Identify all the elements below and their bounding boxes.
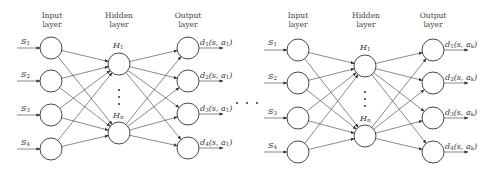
output-label-d4: d4(s, a1) — [200, 138, 232, 149]
hidden-label-hn-k: Hn — [360, 114, 371, 125]
output-node — [177, 137, 199, 159]
hidden-output-edge — [372, 75, 426, 144]
input-hidden-edge — [307, 90, 357, 129]
hidden-node — [354, 125, 376, 147]
hidden-output-edge — [130, 135, 178, 145]
hidden-node — [108, 122, 130, 144]
input-label-s2-k: S2 — [268, 72, 277, 83]
input-node — [40, 70, 62, 92]
hidden-output-edge — [376, 53, 423, 64]
output-node — [177, 70, 199, 92]
output-node — [177, 37, 199, 59]
input-node — [40, 37, 62, 59]
input-label-s1-k: S1 — [268, 38, 277, 49]
input-node — [40, 104, 62, 126]
label-line: layer — [273, 20, 323, 29]
output-layer-label-1: Output layer — [163, 11, 213, 29]
input-hidden-edge — [62, 51, 109, 62]
hidden-output-edge — [372, 59, 426, 128]
label-line: Input — [273, 11, 323, 20]
input-label-s1: S1 — [21, 37, 30, 48]
input-hidden-edge — [309, 69, 355, 81]
hidden-output-edge — [130, 117, 178, 130]
input-layer-label-1: Input layer — [27, 11, 77, 29]
label-line: layer — [27, 20, 77, 29]
input-hidden-edge — [60, 88, 111, 127]
output-node — [422, 72, 444, 94]
output-label-d2: d2(s, a1) — [200, 71, 232, 82]
output-label-d1-k: d1(s, ak) — [445, 40, 477, 51]
input-label-s4: S4 — [21, 138, 30, 149]
output-label-d2-k: d2(s, ak) — [445, 73, 477, 84]
input-label-s4-k: S4 — [268, 141, 277, 152]
output-layer-label-k: Output layer — [408, 11, 458, 29]
input-node — [287, 107, 309, 129]
hidden-output-edge — [126, 57, 181, 125]
output-label-d3-k: d3(s, ak) — [445, 108, 477, 119]
label-line: layer — [163, 20, 213, 29]
label-line: Input — [27, 11, 77, 20]
input-node — [287, 141, 309, 163]
input-node — [40, 138, 62, 160]
input-hidden-edge — [58, 73, 112, 141]
output-label-d4-k: d4(s, ak) — [445, 142, 477, 153]
hidden-output-edge — [374, 90, 425, 129]
hidden-label-h1-k: H1 — [360, 43, 370, 54]
hidden-node — [354, 55, 376, 77]
output-node — [422, 39, 444, 61]
output-label-d3: d3(s, a1) — [200, 104, 232, 115]
input-hidden-edge — [62, 67, 109, 79]
hidden-output-edge — [128, 88, 179, 127]
input-hidden-edge — [309, 139, 355, 150]
label-line: Hidden — [94, 11, 144, 20]
label-line: Output — [408, 11, 458, 20]
input-label-s2: S2 — [21, 70, 30, 81]
input-hidden-edge — [305, 75, 358, 144]
hidden-layer-label-1: Hidden layer — [94, 11, 144, 29]
input-hidden-edge — [307, 73, 357, 112]
input-hidden-edge — [309, 53, 355, 64]
label-line: Output — [163, 11, 213, 20]
hidden-output-edge — [128, 70, 179, 107]
label-line: layer — [341, 20, 391, 29]
hidden-output-edge — [376, 69, 423, 81]
input-layer-label-k: Input layer — [273, 11, 323, 29]
output-node — [422, 107, 444, 129]
input-hidden-edge — [62, 136, 109, 147]
input-node — [287, 72, 309, 94]
input-label-s3: S3 — [21, 104, 30, 115]
output-label-d1: d1(s, a1) — [200, 38, 232, 49]
output-node — [422, 141, 444, 163]
label-line: Hidden — [341, 11, 391, 20]
hidden-label-h1: H1 — [113, 41, 123, 52]
hidden-label-hn: Hn — [113, 111, 124, 122]
hidden-node — [108, 53, 130, 75]
label-line: layer — [94, 20, 144, 29]
input-node — [287, 39, 309, 61]
neural-network-diagram: Input layer Hidden layer Output layer In… — [0, 0, 489, 173]
hidden-layer-label-k: Hidden layer — [341, 11, 391, 29]
input-hidden-edge — [60, 71, 110, 109]
hidden-output-edge — [130, 50, 178, 61]
hidden-output-edge — [376, 121, 423, 133]
input-hidden-edge — [309, 121, 355, 133]
input-label-s3-k: S3 — [268, 107, 277, 118]
input-hidden-edge — [305, 59, 358, 128]
output-node — [177, 103, 199, 125]
label-line: layer — [408, 20, 458, 29]
input-hidden-edge — [58, 57, 112, 125]
hidden-output-edge — [374, 73, 425, 112]
hidden-output-edge — [126, 72, 181, 139]
hidden-output-edge — [376, 139, 423, 150]
